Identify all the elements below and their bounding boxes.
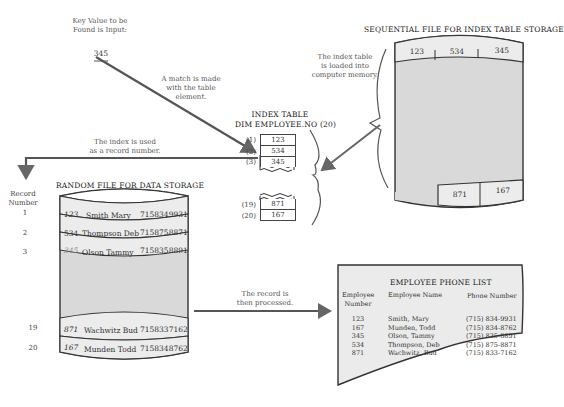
record-phone: 7158349931 xyxy=(140,210,188,219)
employee-name: Munden, Todd xyxy=(388,324,468,333)
record-number: 20 xyxy=(18,344,48,352)
employee-name: Thompson, Deb xyxy=(388,341,468,350)
index-label: (1) xyxy=(232,136,256,144)
index-value: 871 xyxy=(260,199,296,210)
index-label: (2) xyxy=(232,148,256,156)
key-input-value: 345 xyxy=(91,49,111,58)
phone-list-row: 534 Thompson, Deb (715) 875-8871 xyxy=(342,341,517,350)
index-table-dim: DIM EMPLOYEE.NO (20) xyxy=(235,120,336,129)
seq-bottom-cell: 871 xyxy=(445,190,475,199)
phone-list-row: 871 Wachwitz, Bud (715) 833-7162 xyxy=(342,349,517,358)
record-name: Smith Mary xyxy=(86,211,131,220)
key-value-note: Key Value to be Found is Input: xyxy=(60,17,140,35)
record-number-header: Record Number xyxy=(4,190,42,208)
index-row: (19) 871 xyxy=(232,199,296,210)
index-table-bottom: (19) 871 (20) 167 xyxy=(232,199,296,221)
employee-number: 167 xyxy=(342,324,374,333)
record-phone: 7158337162 xyxy=(140,325,188,334)
loaded-note: The index table is loaded into computer … xyxy=(310,53,380,80)
employee-number: 123 xyxy=(342,315,374,324)
employee-number: 871 xyxy=(342,349,374,358)
phone-list-header-name: Employee Name xyxy=(388,291,442,300)
record-number: 2 xyxy=(10,229,40,237)
phone-number: (715) 833-7162 xyxy=(466,349,517,358)
employee-name: Olson, Tammy xyxy=(388,332,468,341)
index-table-title: INDEX TABLE xyxy=(240,110,320,119)
employee-number: 534 xyxy=(342,341,374,350)
index-value: 167 xyxy=(260,210,296,221)
processed-note: The record is then processed. xyxy=(230,290,300,308)
index-used-note: The index is used as a record number. xyxy=(85,138,165,156)
phone-number: (715) 834-9931 xyxy=(466,315,517,324)
sequential-file-cylinder xyxy=(395,36,523,208)
record-name: Wachwitz Bud xyxy=(84,326,138,335)
employee-name: Smith, Mary xyxy=(388,315,468,324)
record-number: 1 xyxy=(10,209,40,217)
index-label: (19) xyxy=(232,201,256,209)
record-key: 123 xyxy=(64,210,78,219)
phone-list-rows: 123 Smith, Mary (715) 834-9931 167 Munde… xyxy=(342,315,517,358)
phone-number: (715) 835-8891 xyxy=(466,332,517,341)
record-key: 534 xyxy=(64,229,78,238)
seq-top-cell: 123 xyxy=(402,47,432,56)
phone-number: (715) 834-8762 xyxy=(466,324,517,333)
phone-list-header-number: Employee Number xyxy=(342,291,374,308)
employee-number: 345 xyxy=(342,332,374,341)
record-number: 3 xyxy=(10,248,40,256)
phone-list-header-phone: Phone Number xyxy=(467,292,517,301)
record-number: 19 xyxy=(18,324,48,332)
index-value: 534 xyxy=(260,146,296,157)
seq-top-cell: 534 xyxy=(442,47,472,56)
index-row: (3) 345 xyxy=(232,157,296,167)
record-phone: 7158758871 xyxy=(140,228,188,237)
phone-list-row: 345 Olson, Tammy (715) 835-8891 xyxy=(342,332,517,341)
record-key: 167 xyxy=(64,343,78,352)
index-label: (3) xyxy=(232,158,256,166)
index-label: (20) xyxy=(232,212,256,220)
sequential-file-title: SEQUENTIAL FILE FOR INDEX TABLE STORAGE xyxy=(364,25,564,34)
index-table-top: (1) 123 (2) 534 (3) 345 xyxy=(232,134,296,167)
index-row: (1) 123 xyxy=(232,134,296,146)
match-note: A match is made with the table element. xyxy=(156,75,226,102)
phone-list-row: 123 Smith, Mary (715) 834-9931 xyxy=(342,315,517,324)
phone-list-row: 167 Munden, Todd (715) 834-8762 xyxy=(342,324,517,333)
record-key: 345 xyxy=(64,246,78,255)
employee-name: Wachwitz, Bud xyxy=(388,349,468,358)
phone-list-title: EMPLOYEE PHONE LIST xyxy=(390,278,492,287)
record-phone: 7158358891 xyxy=(140,246,188,255)
index-value: 123 xyxy=(260,134,296,146)
record-key: 871 xyxy=(64,325,78,334)
record-name: Olson Tammy xyxy=(82,248,133,257)
seq-bottom-cell: 167 xyxy=(488,186,518,195)
record-phone: 7158348762 xyxy=(140,344,188,353)
index-row: (2) 534 xyxy=(232,146,296,157)
record-name: Munden Todd xyxy=(84,345,136,354)
phone-number: (715) 875-8871 xyxy=(466,341,517,350)
index-value: 345 xyxy=(260,157,296,167)
record-name: Thompson Deb xyxy=(82,229,139,238)
seq-top-cell: 345 xyxy=(487,46,517,55)
random-file-title: RANDOM FILE FOR DATA STORAGE xyxy=(56,181,204,190)
index-row: (20) 167 xyxy=(232,210,296,221)
